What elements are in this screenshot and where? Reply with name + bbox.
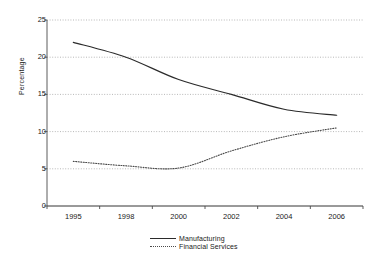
legend-key-solid-icon: [150, 235, 176, 242]
legend-label-manufacturing: Manufacturing: [179, 235, 225, 242]
legend-item-manufacturing: Manufacturing: [150, 234, 238, 242]
line-chart: Percentage 0510152025 199519982000200220…: [0, 0, 384, 264]
legend-label-financial-services: Financial Services: [179, 243, 238, 250]
legend-item-financial-services: Financial Services: [150, 242, 238, 250]
legend-key-dotted-icon: [150, 243, 176, 250]
plot-area: [0, 0, 384, 264]
chart-legend: Manufacturing Financial Services: [150, 234, 238, 250]
series-line-1: [73, 128, 336, 169]
series-line-0: [73, 42, 336, 115]
